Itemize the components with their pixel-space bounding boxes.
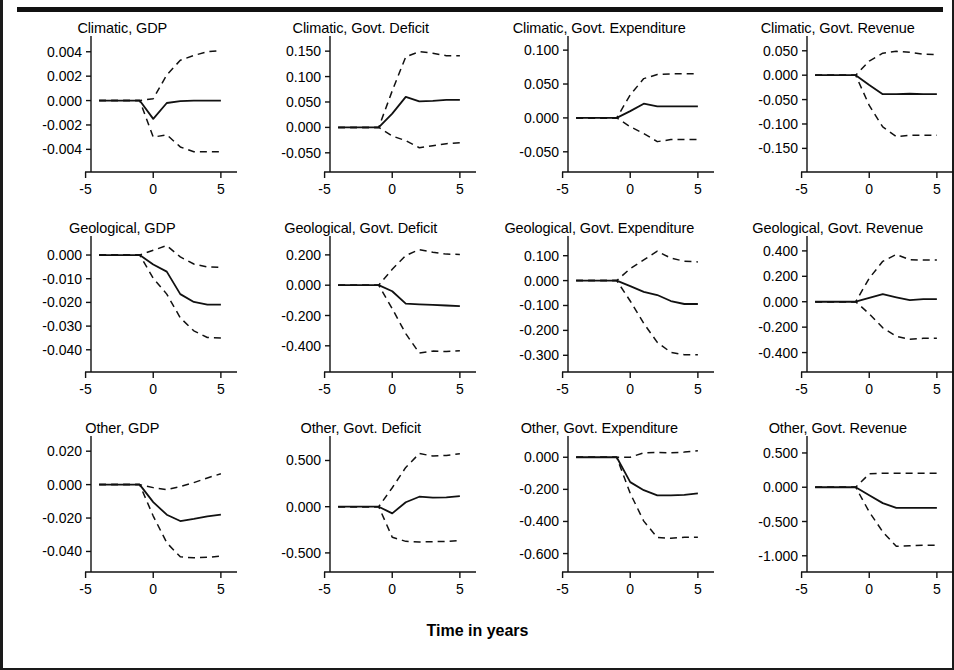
x-tick-label: 0 [149,181,157,197]
y-tick-label: -0.100 [519,297,559,313]
y-tick-label: 0.000 [524,273,559,289]
x-tick-label: -5 [79,581,92,597]
panel-climatic-govt-revenue: Climatic, Govt. Revenue0.0500.000-0.050-… [719,16,954,216]
y-tick-label: 0.000 [762,67,797,83]
y-tick-label: -0.500 [281,545,321,561]
panel-plot: 0.1000.0500.000-0.050-505 [480,16,719,216]
series-line-upper [576,251,698,280]
series-line-lower [99,485,221,558]
series-line-lower [815,75,937,136]
x-tick-label: 0 [626,381,634,397]
series-line-lower [338,285,460,353]
figure-container: Climatic, GDP0.0040.0020.000-0.002-0.004… [0,0,954,670]
y-tick-label: 0.002 [47,68,82,84]
series-line-lower [576,118,698,142]
panel-grid: Climatic, GDP0.0040.0020.000-0.002-0.004… [3,16,954,616]
panel-plot: 0.0040.0020.000-0.002-0.004-505 [3,16,242,216]
y-tick-label: 0.000 [47,247,82,263]
panel-plot: 0.0500.000-0.050-0.100-0.150-505 [719,16,954,216]
x-tick-label: 0 [388,581,396,597]
y-tick-label: -1.000 [758,548,798,564]
x-tick-label: 0 [149,381,157,397]
x-tick-label: 0 [149,581,157,597]
series-line-point [338,97,460,128]
x-tick-label: 5 [932,581,940,597]
x-tick-label: -5 [79,181,92,197]
y-tick-label: 0.200 [762,268,797,284]
y-tick-label: 0.000 [285,119,320,135]
y-tick-label: 0.000 [285,277,320,293]
series-line-lower [815,487,937,546]
series-line-point [338,285,460,306]
y-tick-label: 0.000 [285,499,320,515]
series-line-lower [576,457,698,538]
y-tick-label: -0.050 [281,145,321,161]
panel-geological-gdp: Geological, GDP0.000-0.010-0.020-0.030-0… [3,216,242,416]
series-line-upper [99,51,221,101]
series-line-point [576,281,698,304]
y-tick-label: -0.002 [42,117,82,133]
x-tick-label: 5 [455,181,463,197]
xaxis-title: Time in years [3,622,952,640]
y-tick-label: 0.100 [285,69,320,85]
y-tick-label: 0.100 [524,248,559,264]
x-tick-label: -5 [795,581,808,597]
top-rule-divider [17,7,943,12]
y-tick-label: -0.020 [42,294,82,310]
series-line-upper [576,451,698,457]
y-tick-label: 0.050 [762,43,797,59]
series-line-lower [338,507,460,542]
y-tick-label: 0.000 [762,294,797,310]
y-tick-label: -0.050 [758,92,798,108]
x-tick-label: -5 [556,581,569,597]
series-line-upper [815,51,937,75]
panel-plot: 0.5000.000-0.500-1.000-505 [719,416,954,616]
x-tick-label: -5 [318,381,331,397]
series-line-point [815,487,937,508]
x-tick-label: 5 [694,581,702,597]
x-tick-label: 0 [865,381,873,397]
y-tick-label: -0.400 [519,513,559,529]
panel-plot: 0.1500.1000.0500.000-0.050-505 [242,16,481,216]
y-tick-label: 0.000 [47,93,82,109]
y-tick-label: -0.040 [42,342,82,358]
panel-other-govt-expenditure: Other, Govt. Expenditure0.000-0.200-0.40… [480,416,719,616]
panel-other-govt-deficit: Other, Govt. Deficit0.5000.000-0.500-505 [242,416,481,616]
x-tick-label: -5 [556,181,569,197]
x-tick-label: -5 [795,181,808,197]
series-line-point [815,294,937,302]
x-tick-label: -5 [318,581,331,597]
panel-geological-govt-deficit: Geological, Govt. Deficit0.2000.000-0.20… [242,216,481,416]
series-line-upper [576,74,698,118]
y-tick-label: 0.020 [47,443,82,459]
x-tick-label: 5 [217,181,225,197]
y-tick-label: -0.200 [758,319,798,335]
y-tick-label: -0.150 [758,140,798,156]
series-line-point [576,104,698,118]
y-tick-label: -0.300 [519,347,559,363]
series-line-lower [99,101,221,152]
x-tick-label: -5 [556,381,569,397]
y-tick-label: 0.000 [47,477,82,493]
x-tick-label: 5 [217,381,225,397]
x-tick-label: -5 [79,381,92,397]
series-line-point [815,75,937,94]
x-tick-label: 0 [626,581,634,597]
y-tick-label: 0.500 [285,452,320,468]
panel-plot: 0.2000.000-0.200-0.400-505 [242,216,481,416]
series-line-upper [338,52,460,128]
y-tick-label: -0.400 [281,338,321,354]
y-tick-label: -0.600 [519,546,559,562]
y-tick-label: -0.020 [42,510,82,526]
panel-other-govt-revenue: Other, Govt. Revenue0.5000.000-0.500-1.0… [719,416,954,616]
series-line-upper [99,474,221,490]
x-tick-label: 0 [865,581,873,597]
y-tick-label: -0.030 [42,318,82,334]
series-line-upper [99,246,221,268]
panel-plot: 0.000-0.200-0.400-0.600-505 [480,416,719,616]
x-tick-label: 5 [694,181,702,197]
x-tick-label: 5 [455,581,463,597]
x-tick-label: -5 [318,181,331,197]
y-tick-label: 0.050 [285,94,320,110]
series-line-point [576,457,698,495]
